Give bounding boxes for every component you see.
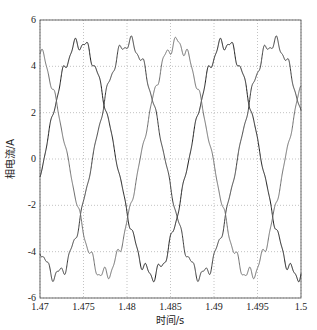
- y-tick-label: 6: [31, 14, 36, 25]
- y-tick-label: 2: [31, 107, 36, 118]
- y-tick-label: 0: [31, 153, 36, 164]
- x-axis-ticks: 1.471.4751.481.4851.491.4951.5: [31, 301, 307, 312]
- y-tick-label: -6: [28, 292, 36, 303]
- y-axis-label: 相电流/A: [4, 139, 16, 179]
- grid-lines: [40, 20, 301, 298]
- x-axis-label: 时间/s: [156, 314, 185, 326]
- y-tick-label: 4: [31, 60, 36, 71]
- x-tick-label: 1.5: [295, 301, 308, 312]
- phase-current-chart: 1.471.4751.481.4851.491.4951.5 -6-4-2024…: [0, 0, 317, 330]
- y-axis-ticks: -6-4-20246: [28, 14, 36, 303]
- x-tick-label: 1.495: [246, 301, 269, 312]
- x-tick-label: 1.49: [205, 301, 223, 312]
- y-tick-label: -2: [28, 199, 36, 210]
- x-tick-label: 1.485: [159, 301, 182, 312]
- x-tick-label: 1.48: [118, 301, 136, 312]
- x-tick-label: 1.475: [72, 301, 95, 312]
- y-tick-label: -4: [28, 246, 36, 257]
